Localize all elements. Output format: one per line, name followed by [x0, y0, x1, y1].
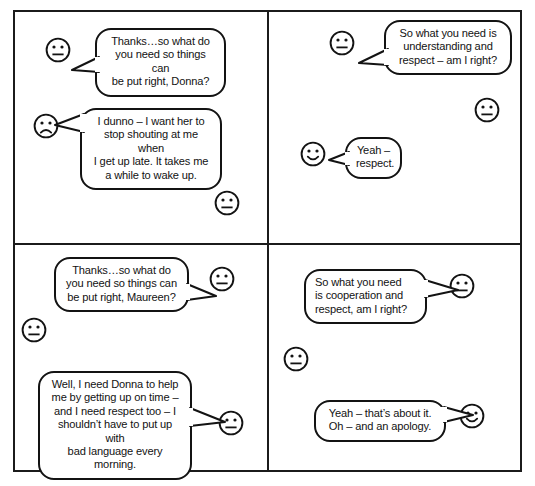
neutral-face-icon [21, 317, 47, 343]
bubble-line: understanding and [403, 40, 492, 52]
bubble-mediator-question: Thanks…so what do you need so things can… [95, 28, 226, 97]
bubble-line: me by getting up on time – [52, 391, 179, 403]
neutral-face-icon [214, 190, 240, 216]
face-neutral-donna [283, 346, 309, 372]
bubble-text: So what you need is cooperation and resp… [304, 269, 427, 324]
bubble-maureen-agreement: Yeah – that’s about it. Oh – and an apol… [314, 400, 446, 442]
neutral-face-icon [45, 37, 71, 63]
bubble-line: be put right, Maureen? [67, 291, 175, 303]
bubble-line: Thanks…so what do [72, 264, 171, 276]
bubble-line: stop shouting at me when [104, 128, 198, 153]
bubble-line: be put right, Donna? [112, 75, 210, 87]
bubble-line: you need so things can [115, 48, 205, 73]
neutral-face-icon [329, 30, 355, 56]
bubble-donna-agreement: Yeah – respect. [345, 137, 402, 179]
bubble-mediator-summary: So what you need is cooperation and resp… [304, 269, 427, 324]
face-neutral-mediator [329, 30, 355, 56]
bubble-text: So what you need is understanding and re… [384, 20, 512, 75]
bubble-line: you need so things can [66, 277, 177, 289]
bubble-maureen-reply: Well, I need Donna to help me by getting… [38, 371, 192, 480]
bubble-line: Yeah – [357, 144, 390, 156]
panel-top-left: Thanks…so what do you need so things can… [15, 12, 267, 243]
bubble-text: Well, I need Donna to help me by getting… [38, 371, 192, 480]
bubble-line: Thanks…so what do [111, 35, 210, 47]
face-neutral-bystander [474, 97, 500, 123]
bubble-tail-icon [186, 405, 226, 431]
bubble-text: Yeah – respect. [345, 137, 402, 179]
bubble-tail-icon [421, 277, 459, 301]
bubble-line: Oh – and an apology. [329, 420, 431, 432]
bubble-line: a while to wake up. [105, 169, 197, 181]
neutral-face-icon [474, 97, 500, 123]
bubble-mediator-question: Thanks…so what do you need so things can… [54, 257, 189, 312]
bubble-line: I get up late. It takes me [94, 155, 209, 167]
bubble-text: Yeah – that’s about it. Oh – and an apol… [314, 400, 446, 442]
bubble-line: Well, I need Donna to help [52, 378, 179, 390]
bubble-donna-reply: I dunno – I want her to stop shouting at… [80, 108, 222, 190]
bubble-line: So what you need is [399, 27, 496, 39]
bubble-line: shouldn’t have to put up with [58, 418, 172, 443]
comic-strip: Thanks…so what do you need so things can… [0, 0, 535, 486]
bubble-line: Yeah – that’s about it. [329, 407, 432, 419]
bubble-line: I dunno – I want her to [98, 115, 205, 127]
bubble-tail-icon [328, 149, 351, 169]
panel-bottom-left: Thanks…so what do you need so things can… [15, 245, 267, 470]
bubble-line: respect. [356, 157, 394, 169]
face-neutral-bystander [214, 190, 240, 216]
bubble-tail-icon [71, 54, 101, 76]
bubble-text: Thanks…so what do you need so things can… [95, 28, 226, 97]
bubble-line: So what you need [315, 276, 401, 288]
bubble-line: and I need respect too – I [54, 405, 176, 417]
panel-top-right: So what you need is understanding and re… [269, 12, 520, 243]
bubble-tail-icon [358, 46, 390, 70]
bubble-line: respect – am I right? [399, 54, 497, 66]
bubble-mediator-summary: So what you need is understanding and re… [384, 20, 512, 75]
bubble-text: Thanks…so what do you need so things can… [54, 257, 189, 312]
bubble-tail-icon [183, 281, 217, 305]
happy-face-icon [300, 141, 326, 167]
bubble-line: respect, am I right? [315, 303, 407, 315]
bubble-tail-icon [54, 112, 86, 136]
bubble-tail-icon [440, 404, 474, 426]
face-happy-donna [300, 141, 326, 167]
face-neutral-mediator [45, 37, 71, 63]
panel-bottom-right: So what you need is cooperation and resp… [269, 245, 520, 470]
bubble-line: bad language every morning. [68, 445, 163, 470]
neutral-face-icon [283, 346, 309, 372]
face-neutral-donna [21, 317, 47, 343]
bubble-text: I dunno – I want her to stop shouting at… [80, 108, 222, 190]
bubble-line: is cooperation and [315, 289, 403, 301]
